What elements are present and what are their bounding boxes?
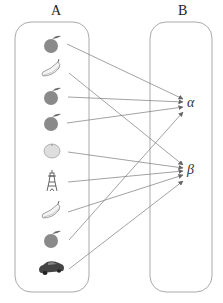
- arrow-a1-alpha: [67, 44, 183, 99]
- arrow-a5-beta: [68, 152, 183, 168]
- banana-icon: [42, 201, 60, 218]
- apple-icon: [44, 231, 61, 248]
- tower-icon: [47, 170, 57, 191]
- arrow-a2-beta: [69, 73, 183, 165]
- arrow-a4-alpha: [67, 107, 183, 123]
- arrow-a8-alpha: [69, 112, 183, 240]
- codomain-alpha-label: α: [187, 95, 194, 111]
- orange-icon: [44, 144, 60, 158]
- apple-icon: [44, 36, 61, 53]
- apple-icon: [44, 88, 61, 105]
- arrow-a3-alpha: [68, 97, 183, 102]
- car-icon: [39, 261, 64, 275]
- apple-icon: [44, 114, 61, 131]
- codomain-beta-label: β: [187, 162, 194, 178]
- banana-icon: [42, 59, 60, 76]
- mapping-arrows: [67, 44, 183, 269]
- set-b-box: [150, 22, 212, 292]
- arrow-a9-beta: [69, 181, 183, 269]
